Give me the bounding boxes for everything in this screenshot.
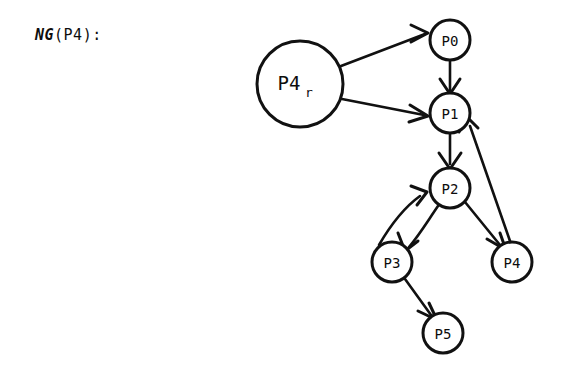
node-p0[interactable]: P0 — [430, 20, 470, 60]
node-p4r[interactable]: P4 r — [257, 41, 343, 127]
diagram-page: NG(P4): — [0, 0, 568, 375]
node-p3-label: P3 — [384, 255, 401, 271]
node-p2-label: P2 — [442, 181, 459, 197]
edge-p1-p2 — [439, 133, 461, 169]
node-p1[interactable]: P1 — [430, 93, 470, 133]
node-p3[interactable]: P3 — [372, 242, 412, 282]
edge-p3-p5 — [405, 279, 437, 320]
node-graph: P4 r P0 P1 P2 P3 — [0, 0, 568, 375]
node-p5-label: P5 — [435, 326, 452, 342]
edge-p3-p2 — [379, 186, 427, 245]
node-p4r-subscript: r — [305, 85, 313, 100]
edge-p4r-p0 — [341, 25, 428, 66]
node-p4[interactable]: P4 — [492, 242, 532, 282]
node-p4r-label: P4 — [278, 72, 301, 94]
edge-p4r-p1 — [342, 99, 428, 122]
node-p0-label: P0 — [442, 33, 459, 49]
edge-p0-p1 — [440, 60, 460, 94]
node-p5[interactable]: P5 — [423, 313, 463, 353]
node-p2[interactable]: P2 — [430, 168, 470, 208]
node-p4-label: P4 — [504, 255, 521, 271]
edge-layer — [341, 25, 510, 320]
node-p1-label: P1 — [442, 106, 459, 122]
